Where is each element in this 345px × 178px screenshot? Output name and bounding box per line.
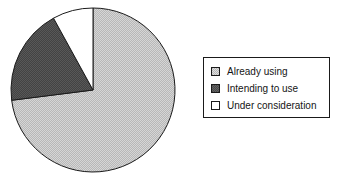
legend-label-under-consideration: Under consideration xyxy=(227,100,317,111)
chart-legend: Already using Intending to use Under con… xyxy=(203,57,330,118)
legend-item-intending-to-use: Intending to use xyxy=(211,80,329,97)
legend-swatch-already-using xyxy=(211,67,220,76)
legend-label-already-using: Already using xyxy=(227,66,288,77)
pie-slice-group xyxy=(11,8,175,172)
legend-label-intending-to-use: Intending to use xyxy=(227,83,298,94)
legend-item-already-using: Already using xyxy=(211,63,329,80)
legend-item-under-consideration: Under consideration xyxy=(211,97,329,114)
legend-swatch-under-consideration xyxy=(211,101,220,110)
legend-swatch-intending-to-use xyxy=(211,84,220,93)
pie-chart-figure: Already using Intending to use Under con… xyxy=(0,0,345,178)
